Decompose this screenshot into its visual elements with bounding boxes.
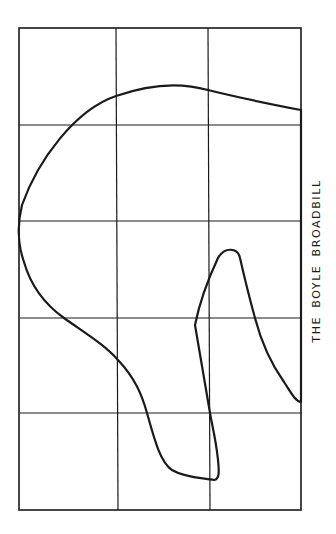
broadbill-outline bbox=[19, 85, 301, 480]
grid-border bbox=[19, 28, 301, 510]
grid bbox=[19, 28, 302, 510]
figure-caption: THE BOYLE BROADBILL bbox=[310, 179, 323, 342]
grid-vertical-line bbox=[116, 28, 118, 510]
grid-vertical-line bbox=[208, 28, 210, 510]
grid-diagram bbox=[0, 0, 336, 534]
